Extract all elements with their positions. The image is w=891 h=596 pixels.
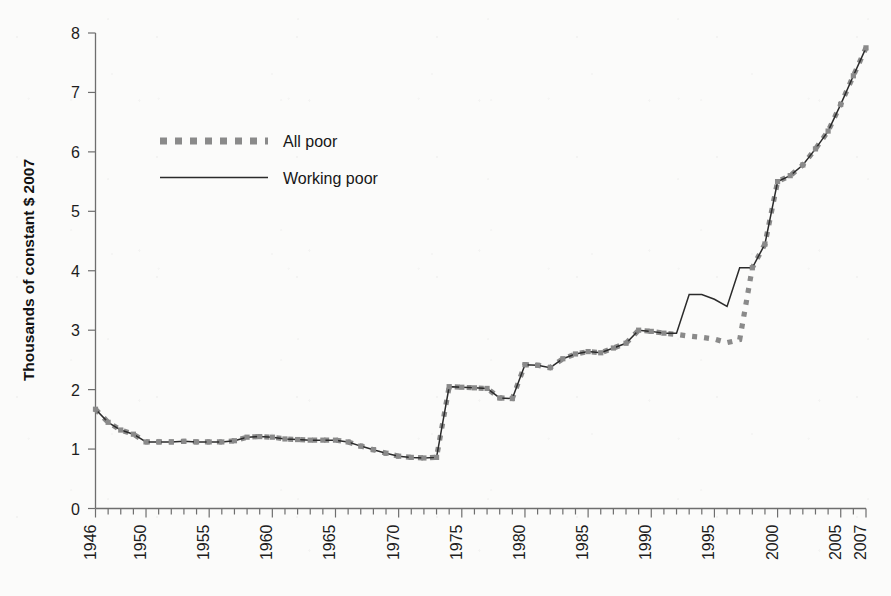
y-tick-label: 0 (71, 501, 80, 518)
data-point-marker (383, 451, 388, 456)
data-point-marker (308, 438, 313, 443)
data-point-marker (826, 128, 831, 133)
y-axis-title: Thousands of constant $ 2007 (20, 159, 37, 381)
x-tick-label: 1946 (82, 524, 99, 560)
data-point-marker (358, 443, 363, 448)
x-tick-label: 1960 (258, 524, 275, 560)
x-tick-label: 2007 (852, 524, 869, 560)
data-point-marker (409, 455, 414, 460)
x-tick-label: 1980 (511, 524, 528, 560)
y-tick-label: 8 (71, 25, 80, 42)
data-point-marker (788, 173, 793, 178)
data-point-marker (434, 455, 439, 460)
y-tick-label: 1 (71, 441, 80, 458)
x-tick-label: 1950 (132, 524, 149, 560)
data-point-marker (219, 439, 224, 444)
data-point-marker (131, 432, 136, 437)
x-tick-label: 1985 (574, 524, 591, 560)
x-tick-label: 1995 (700, 524, 717, 560)
x-axis-ticks (96, 509, 867, 518)
data-point-marker (421, 455, 426, 460)
data-point-marker (244, 435, 249, 440)
chart-legend: All poor Working poor (160, 133, 379, 187)
data-point-marker (623, 341, 628, 346)
y-tick-label: 2 (71, 382, 80, 399)
data-point-marker (106, 420, 111, 425)
data-point-marker (838, 102, 843, 107)
data-point-marker (497, 395, 502, 400)
data-point-marker (282, 436, 287, 441)
data-point-marker (169, 439, 174, 444)
data-point-marker (371, 447, 376, 452)
data-point-marker (548, 365, 553, 370)
x-tick-label: 1970 (385, 524, 402, 560)
data-point-marker (257, 434, 262, 439)
series-markers (93, 45, 869, 460)
x-tick-label: 1955 (195, 524, 212, 560)
y-tick-label: 3 (71, 322, 80, 339)
data-point-marker (800, 162, 805, 167)
chart-page: 012345678 194619501955196019651970197519… (0, 0, 891, 596)
x-tick-label: 1990 (637, 524, 654, 560)
data-point-marker (118, 427, 123, 432)
data-point-marker (510, 396, 515, 401)
x-tick-label: 1975 (448, 524, 465, 560)
legend-label-working-poor: Working poor (283, 170, 379, 187)
data-point-marker (396, 454, 401, 459)
data-point-marker (207, 439, 212, 444)
data-point-marker (459, 385, 464, 390)
data-point-marker (232, 438, 237, 443)
y-tick-label: 4 (71, 263, 80, 280)
line-chart: 012345678 194619501955196019651970197519… (0, 0, 891, 596)
data-point-marker (636, 328, 641, 333)
data-point-marker (573, 351, 578, 356)
data-point-marker (762, 241, 767, 246)
y-tick-label: 7 (71, 84, 80, 101)
y-tick-label: 6 (71, 144, 80, 161)
data-point-marker (750, 265, 755, 270)
x-tick-label: 2000 (764, 524, 781, 560)
data-point-marker (586, 349, 591, 354)
data-point-marker (181, 439, 186, 444)
data-point-marker (649, 329, 654, 334)
data-point-marker (320, 438, 325, 443)
data-point-marker (598, 350, 603, 355)
data-point-marker (143, 439, 148, 444)
data-point-marker (156, 439, 161, 444)
data-point-marker (522, 362, 527, 367)
data-point-marker (472, 385, 477, 390)
data-point-marker (813, 146, 818, 151)
x-tick-label: 1965 (321, 524, 338, 560)
series-working-poor (96, 48, 867, 458)
data-point-marker (560, 356, 565, 361)
data-point-marker (863, 45, 868, 50)
data-point-marker (194, 439, 199, 444)
data-point-marker (611, 345, 616, 350)
y-tick-label: 5 (71, 203, 80, 220)
data-point-marker (775, 179, 780, 184)
data-point-marker (535, 363, 540, 368)
y-axis-ticks: 012345678 (71, 25, 95, 518)
x-axis-tick-labels: 1946195019551960196519701975198019851990… (82, 524, 870, 560)
legend-label-all-poor: All poor (283, 133, 338, 150)
x-tick-label: 2005 (827, 524, 844, 560)
data-point-marker (661, 331, 666, 336)
plot-axes (96, 33, 867, 509)
data-point-marker (851, 73, 856, 78)
data-point-marker (295, 437, 300, 442)
data-point-marker (93, 407, 98, 412)
data-point-marker (270, 435, 275, 440)
data-point-marker (333, 438, 338, 443)
data-point-marker (346, 439, 351, 444)
data-point-marker (484, 386, 489, 391)
series-all-poor (96, 48, 867, 458)
data-point-marker (447, 384, 452, 389)
